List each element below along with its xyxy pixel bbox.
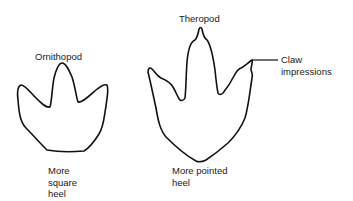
claw-impressions-label: Claw impressions: [281, 54, 332, 77]
ornithopod-footprint-outline: [18, 63, 108, 152]
theropod-footprint-outline: [148, 28, 252, 162]
theropod-label: Theropod: [179, 13, 220, 25]
ornithopod-caption: More square heel: [48, 165, 77, 200]
theropod-caption: More pointed heel: [172, 165, 227, 188]
ornithopod-label: Ornithopod: [35, 51, 82, 63]
